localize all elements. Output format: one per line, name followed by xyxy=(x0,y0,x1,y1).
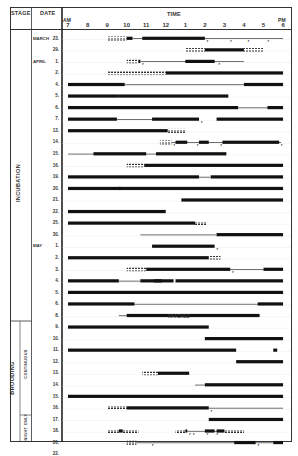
hour-tick: 12 xyxy=(162,22,169,28)
svg-text:r: r xyxy=(217,246,219,251)
row-date-label: 10. xyxy=(40,336,59,341)
row-date-label: 22. xyxy=(40,209,59,214)
incubation-label: INCUBATION xyxy=(15,158,21,208)
attendance-bars: rrrrrrrrrrrrrrrrrrrr xyxy=(68,37,283,451)
row-date-label: 18. xyxy=(40,428,59,433)
row-date-label: 6. xyxy=(40,301,59,306)
row-date-label: 16. xyxy=(40,163,59,168)
hatched-annotation: HATCHED xyxy=(168,314,190,319)
row-date-label: 5. xyxy=(40,93,59,98)
hour-tick: 3 xyxy=(223,22,226,28)
row-date-label: 14. xyxy=(40,139,59,144)
hour-tick: 1 xyxy=(184,22,187,28)
row-date-label: 20. xyxy=(40,186,59,191)
row-date-label: 20. xyxy=(40,440,59,445)
row-date-label: 13. xyxy=(40,370,59,375)
night-only-label: NIGHT ONLY xyxy=(24,412,28,442)
row-date-label: 15. xyxy=(40,394,59,399)
hour-tick: 5 xyxy=(262,22,265,28)
hour-tick: 9 xyxy=(105,22,108,28)
row-date-label: 6. xyxy=(40,105,59,110)
hour-tick: 11 xyxy=(143,22,149,28)
hour-tick: 6 xyxy=(281,22,284,28)
row-date-label: 2. xyxy=(40,70,59,75)
row-date-label: 30. xyxy=(40,232,59,237)
row-date-label: 29. xyxy=(40,47,59,52)
row-date-label: 4. xyxy=(40,82,59,87)
row-date-label: 11. xyxy=(40,347,59,352)
row-date-label: 1. xyxy=(40,59,59,64)
row-date-label: 9. xyxy=(40,324,59,329)
row-date-label: 2. xyxy=(40,255,59,260)
time-header: TIME xyxy=(167,11,181,17)
row-date-label: 25. xyxy=(40,220,59,225)
hour-tick: 4 xyxy=(242,22,245,28)
hour-tick: 2 xyxy=(203,22,206,28)
row-date-label: 7. xyxy=(40,116,59,121)
row-date-label: 8. xyxy=(40,313,59,318)
row-date-label: 13. xyxy=(40,128,59,133)
date-header: DATE xyxy=(40,10,55,16)
row-date-label: 23. xyxy=(40,36,59,41)
row-date-label: 4. xyxy=(40,278,59,283)
row-date-label: 17. xyxy=(40,417,59,422)
stage-header: STAGE xyxy=(11,10,31,16)
row-date-label: 14. xyxy=(40,382,59,387)
brooding-label: BROODING xyxy=(9,358,15,398)
row-date-label: 5. xyxy=(40,290,59,295)
row-date-label: 1. xyxy=(40,243,59,248)
svg-text:r: r xyxy=(201,119,203,124)
row-date-label: 21. xyxy=(40,197,59,202)
hour-tick: 8 xyxy=(86,22,89,28)
row-date-label: 3. xyxy=(40,267,59,272)
row-date-label: 22. xyxy=(40,451,59,456)
row-date-label: 12. xyxy=(40,359,59,364)
continuous-label: CONTINUOUS xyxy=(24,344,28,384)
hour-tick: 7 xyxy=(66,22,69,28)
row-date-label: 16. xyxy=(40,405,59,410)
hour-tick: 10 xyxy=(123,22,130,28)
row-date-label: 19. xyxy=(40,174,59,179)
svg-text:r: r xyxy=(281,142,283,147)
row-date-label: 15. xyxy=(40,151,59,156)
